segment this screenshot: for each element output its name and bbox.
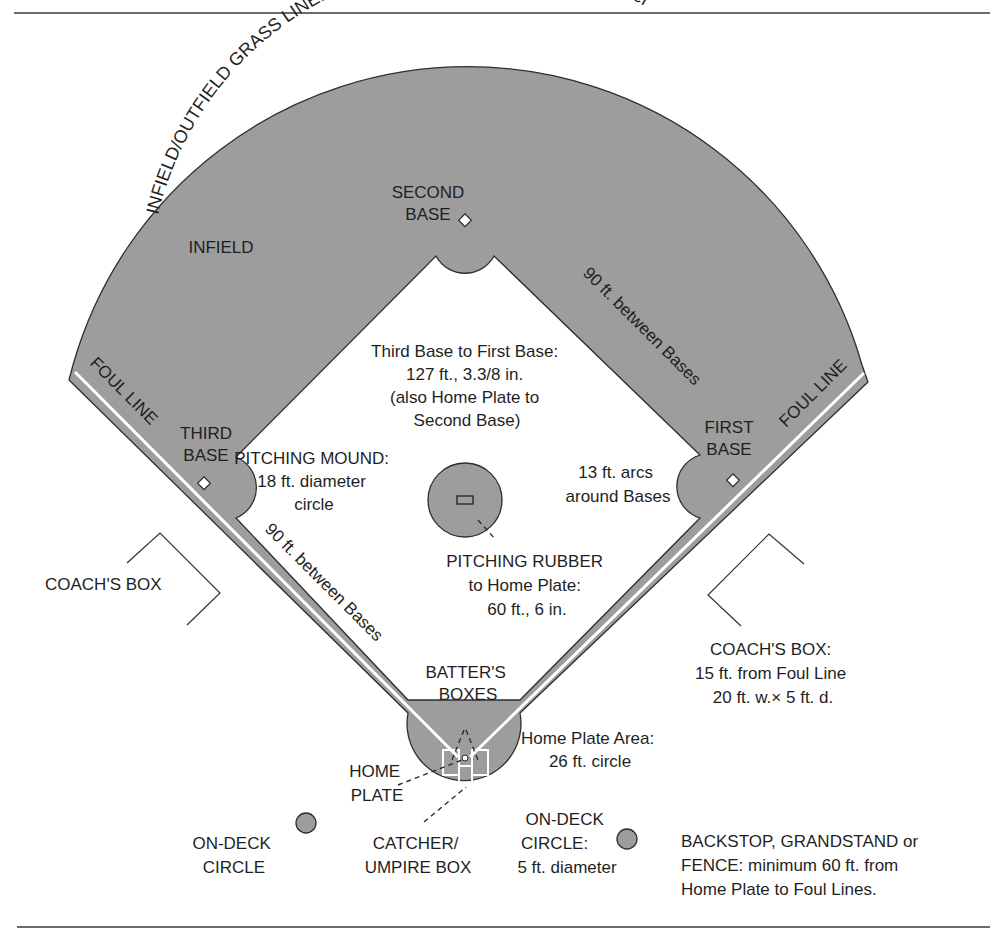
home-plate-area-label: Home Plate Area: 26 ft. circle [521,729,659,771]
catcher-box-leader [424,787,466,822]
home-plate-icon [462,755,468,761]
batters-boxes-label: BATTER'S BOXES [425,663,510,704]
third-to-first-label: Third Base to First Base: 127 ft., 3.3/8… [371,342,563,430]
on-deck-circle-right-icon [617,829,637,849]
on-deck-left-label: ON-DECK CIRCLE [192,834,275,877]
baseball-field-diagram: INFIELD/OUTFIELD GRASS LINE: 95 ft. radi… [0,0,1004,939]
coach-box-left-label: COACH'S BOX [45,575,162,594]
on-deck-circle-left-icon [296,813,316,833]
pitching-rubber-label: PITCHING RUBBER to Home Plate: 60 ft., 6… [446,552,608,619]
coach-box-right-label: COACH'S BOX: 15 ft. from Foul Line 20 ft… [695,640,851,707]
home-plate-label: HOME PLATE [349,762,405,805]
infield-label: INFIELD [188,238,253,257]
pitching-mound-label: PITCHING MOUND: 18 ft. diameter circle [234,449,394,514]
backstop-label: BACKSTOP, GRANDSTAND or FENCE: minimum 6… [681,832,923,899]
arcs-around-bases-label: 13 ft. arcs around Bases [566,463,671,506]
catcher-box-label: CATCHER/ UMPIRE BOX [365,834,472,877]
foul-line-left-stripe [75,372,458,757]
pitching-mound [428,463,502,537]
on-deck-right-label: ON-DECK CIRCLE: 5 ft. diameter [517,810,617,877]
coach-box-right-shape [708,534,804,626]
